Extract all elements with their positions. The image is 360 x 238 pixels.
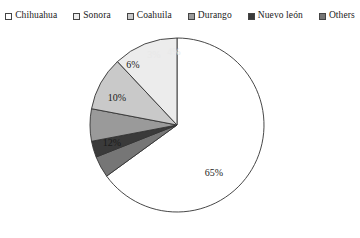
slice-sonora-value-label: 12% <box>103 137 121 148</box>
legend-label-others: Others <box>329 11 355 21</box>
slice-chihuahua-value-label: 65% <box>205 167 223 178</box>
legend-item-others[interactable]: Others <box>319 11 355 21</box>
legend-swatch-nuevo-leon <box>248 13 255 20</box>
legend-swatch-durango <box>188 13 195 20</box>
pie-slice-group <box>90 38 264 212</box>
legend-label-coahuila: Coahuila <box>137 11 172 21</box>
pie-chart-plot-area: 65%4%3%6%10%12% <box>0 26 360 238</box>
slice-coahuila-value-label: 10% <box>108 92 126 103</box>
chart-legend: Chihuahua Sonora Coahuila Durango Nuevo … <box>0 7 360 25</box>
slice-others-value-label: 4% <box>167 46 180 57</box>
legend-swatch-sonora <box>73 13 80 20</box>
legend-swatch-chihuahua <box>5 13 12 20</box>
legend-label-nuevo-leon: Nuevo león <box>258 11 303 21</box>
pie-chart-svg: 65%4%3%6%10%12% <box>0 26 360 238</box>
legend-label-sonora: Sonora <box>83 11 111 21</box>
legend-item-durango[interactable]: Durango <box>188 11 232 21</box>
legend-label-durango: Durango <box>198 11 232 21</box>
legend-swatch-others <box>319 13 326 20</box>
slice-nuevo-leon-value-label: 3% <box>147 49 160 60</box>
legend-label-chihuahua: Chihuahua <box>15 11 57 21</box>
slice-durango-value-label: 6% <box>126 59 139 70</box>
legend-item-coahuila[interactable]: Coahuila <box>127 11 172 21</box>
pie-chart-figure: Chihuahua Sonora Coahuila Durango Nuevo … <box>0 0 360 238</box>
legend-item-nuevo-leon[interactable]: Nuevo león <box>248 11 303 21</box>
legend-item-chihuahua[interactable]: Chihuahua <box>5 11 57 21</box>
legend-swatch-coahuila <box>127 13 134 20</box>
legend-item-sonora[interactable]: Sonora <box>73 11 111 21</box>
